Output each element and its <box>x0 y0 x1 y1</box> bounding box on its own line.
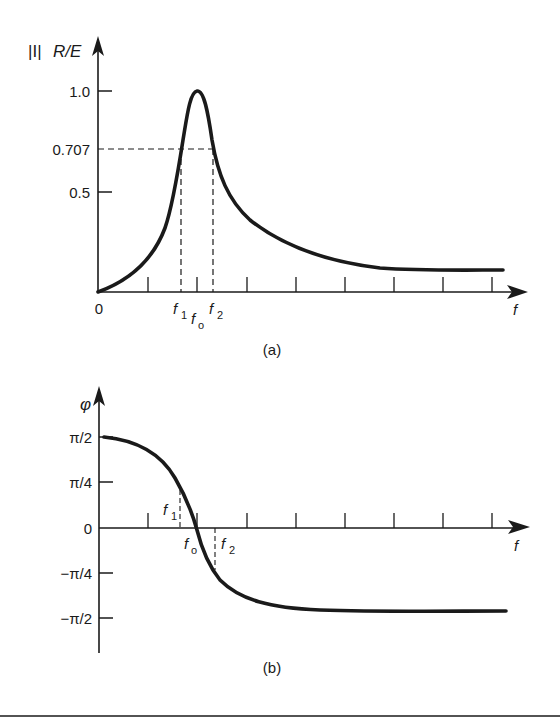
svg-text:f: f <box>209 300 215 317</box>
chart-b-f1-label: f 1 <box>163 501 177 522</box>
svg-text:f: f <box>163 501 169 518</box>
chart-b-ytick-label-mpi4: −π/4 <box>60 565 92 582</box>
chart-a-y-label: |I| R/E <box>28 42 82 61</box>
chart-b-ytick-label-pi4: π/4 <box>69 474 92 491</box>
chart-a-resonance-curve <box>98 91 503 292</box>
svg-text:f: f <box>221 535 227 552</box>
chart-a-half-power-guides <box>98 149 213 292</box>
chart-a-ylabel-magnitude: |I| <box>28 42 42 61</box>
chart-b-fo-label: f o <box>184 535 197 556</box>
chart-b-ytick-label-pi2: π/2 <box>69 429 92 446</box>
chart-a-x-label: f <box>513 301 519 318</box>
chart-b-phase-curve <box>104 437 506 611</box>
chart-a-x-ticks <box>148 277 492 292</box>
svg-text:1: 1 <box>171 510 177 522</box>
svg-text:f: f <box>191 310 197 327</box>
chart-a-ylabel-ratio: R/E <box>53 42 82 61</box>
chart-a-caption: (a) <box>263 341 281 358</box>
chart-b-x-arrow-icon <box>508 520 530 534</box>
svg-text:o: o <box>198 319 204 331</box>
figure: |I| R/E 1.0 0.707 0.5 0 f 1 f o f 2 f (a… <box>0 0 560 720</box>
chart-a-ytick-label-0707: 0.707 <box>52 141 90 158</box>
chart-a-f1-label: f 1 <box>173 300 187 321</box>
chart-a-origin-label: 0 <box>95 300 103 317</box>
chart-b-f2-label: f 2 <box>221 535 235 556</box>
chart-b-x-ticks <box>148 513 492 528</box>
svg-text:2: 2 <box>229 544 235 556</box>
svg-text:f: f <box>184 535 190 552</box>
chart-b-x-label: f <box>514 537 520 554</box>
chart-b-y-label: φ <box>80 395 91 414</box>
svg-text:2: 2 <box>217 309 223 321</box>
chart-a-fo-label: f o <box>191 310 204 331</box>
chart-a: |I| R/E 1.0 0.707 0.5 0 f 1 f o f 2 f (a… <box>28 36 528 358</box>
chart-b-ytick-label-mpi2: −π/2 <box>60 610 92 627</box>
svg-text:o: o <box>191 544 197 556</box>
chart-b-caption: (b) <box>263 659 281 676</box>
svg-text:f: f <box>173 300 179 317</box>
chart-a-f2-label: f 2 <box>209 300 223 321</box>
chart-a-ytick-label-05: 0.5 <box>69 184 90 201</box>
chart-b: φ π/2 π/4 0 −π/4 −π/2 f 1 f o f 2 f (b) <box>60 386 530 676</box>
svg-text:1: 1 <box>181 309 187 321</box>
chart-a-ytick-label-1: 1.0 <box>69 83 90 100</box>
chart-b-ytick-label-0: 0 <box>84 520 92 537</box>
